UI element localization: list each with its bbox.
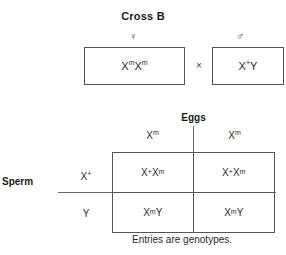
figure-caption: Entries are genotypes. <box>82 234 282 245</box>
punnett-grid: X+Xm X+Xm XmY XmY <box>112 152 275 233</box>
sperm-row-header: X+ <box>62 171 110 182</box>
punnett-cell: X+Xm <box>113 153 194 193</box>
cross-operator: × <box>186 60 212 71</box>
female-sex-symbol-icon: ♀ <box>78 31 188 42</box>
punnett-cell: XmY <box>194 193 275 233</box>
male-sex-symbol-icon: ♂ <box>185 31 286 42</box>
egg-column-header: Xm <box>194 130 275 141</box>
male-parent-box: X+Y <box>212 47 284 85</box>
male-parent-genotype: X+Y <box>239 60 258 72</box>
female-parent-genotype: XmXm <box>121 60 147 72</box>
punnett-cell: X+Xm <box>194 153 275 193</box>
punnett-square-figure: Cross B ♀ XmXm × ♂ X+Y Eggs Sperm Xm Xm … <box>0 0 286 255</box>
sperm-row-header: Y <box>62 208 110 219</box>
eggs-axis-label: Eggs <box>112 112 275 123</box>
figure-title: Cross B <box>0 10 286 22</box>
sperm-axis-label: Sperm <box>2 176 58 187</box>
punnett-cell: XmY <box>113 193 194 233</box>
egg-column-header: Xm <box>112 130 193 141</box>
female-parent-box: XmXm <box>84 47 185 85</box>
